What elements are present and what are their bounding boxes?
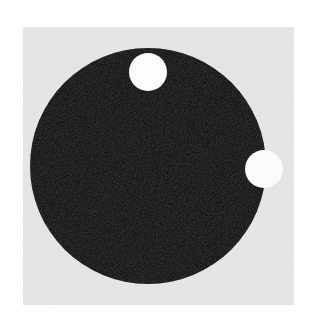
- white-dot-right: [245, 150, 283, 188]
- figure-canvas: Black disk with two white circular marke…: [0, 0, 316, 324]
- figure-graphic: [0, 0, 316, 324]
- white-dot-top: [129, 53, 167, 91]
